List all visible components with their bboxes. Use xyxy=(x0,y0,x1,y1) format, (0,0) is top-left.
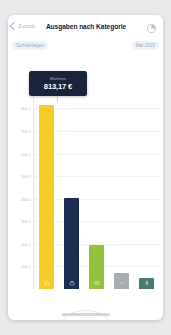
pie-chart-icon[interactable] xyxy=(146,20,157,31)
ticket-icon[interactable] xyxy=(92,278,101,287)
pill-icon[interactable] xyxy=(142,278,151,287)
tooltip-stem xyxy=(57,96,58,102)
y-axis-tick-label: 700 € xyxy=(21,128,31,133)
page-title: Ausgaben nach Kategorie xyxy=(42,23,130,30)
dots-icon[interactable] xyxy=(117,278,126,287)
account-filter-chip[interactable]: Sichteinlagen xyxy=(12,41,48,51)
chevron-left-icon xyxy=(10,22,18,30)
y-axis-tick-label: 200 € xyxy=(21,241,31,246)
phone-frame: Zurück Ausgaben nach Kategorie Sichteinl… xyxy=(8,15,163,320)
y-axis-tick-label: 800 € xyxy=(21,106,31,111)
shopping-bag-icon[interactable] xyxy=(67,278,76,287)
period-filter-chip[interactable]: Mai 2020 xyxy=(132,41,159,51)
plot-area: 800 €700 €600 €500 €400 €300 €200 €100 € xyxy=(34,97,159,289)
back-button[interactable]: Zurück xyxy=(11,23,35,29)
home-indicator[interactable] xyxy=(62,313,110,316)
bar-chart: 800 €700 €600 €500 €400 €300 €200 €100 €… xyxy=(8,53,163,303)
value-tooltip: Wohnen 813,17 € xyxy=(29,71,87,96)
y-axis-tick-label: 600 € xyxy=(21,151,31,156)
navigation-bar: Zurück Ausgaben nach Kategorie xyxy=(8,15,163,37)
bar-wohnen[interactable] xyxy=(39,105,54,289)
home-icon[interactable] xyxy=(42,278,51,287)
tooltip-value: 813,17 € xyxy=(44,82,72,91)
tooltip-category-label: Wohnen xyxy=(50,76,67,81)
back-button-label: Zurück xyxy=(18,23,35,29)
y-axis-tick-label: 400 € xyxy=(21,196,31,201)
bar-shopping[interactable] xyxy=(64,198,79,289)
filter-chip-row: Sichteinlagen Mai 2020 xyxy=(8,39,163,52)
y-axis-tick-label: 500 € xyxy=(21,174,31,179)
y-axis-tick-label: 100 € xyxy=(21,264,31,269)
y-axis-tick-label: 300 € xyxy=(21,219,31,224)
